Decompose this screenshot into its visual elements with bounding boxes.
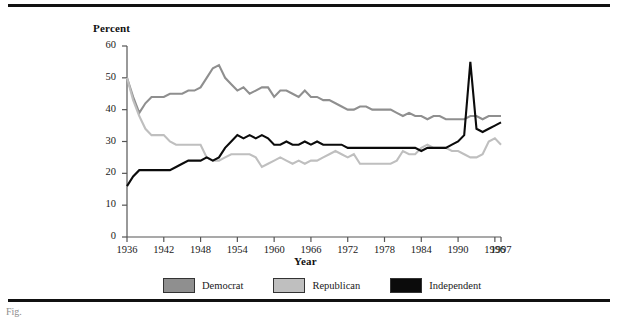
data-series-group	[127, 62, 501, 186]
y-tick-label: 20	[94, 166, 116, 177]
series-line-independent	[127, 62, 501, 186]
x-tick-label: 1978	[365, 244, 405, 255]
y-tick-label: 30	[94, 135, 116, 146]
y-tick-label: 40	[94, 103, 116, 114]
series-line-democrat	[127, 65, 501, 119]
figure-container: Percent Year 010203040506019361942194819…	[0, 0, 618, 325]
y-tick-label: 50	[94, 71, 116, 82]
y-tick-label: 60	[94, 39, 116, 50]
x-tick-label: 1997	[481, 244, 521, 255]
x-tick-label: 1990	[438, 244, 478, 255]
y-tick-label: 0	[94, 230, 116, 241]
legend-democrat[interactable]: Democrat	[163, 278, 243, 293]
x-tick-label: 1972	[328, 244, 368, 255]
x-tick-label: 1936	[107, 244, 147, 255]
legend-swatch-icon	[163, 278, 195, 293]
x-tick-label: 1948	[181, 244, 221, 255]
series-line-republican	[127, 78, 501, 167]
x-tick-label: 1966	[291, 244, 331, 255]
legend-label: Democrat	[202, 280, 243, 291]
legend-swatch-icon	[390, 278, 422, 293]
chart-legend: DemocratRepublicanIndependent	[163, 276, 493, 294]
x-tick-label: 1984	[401, 244, 441, 255]
legend-label: Republican	[312, 280, 360, 291]
legend-republican[interactable]: Republican	[273, 278, 360, 293]
legend-label: Independent	[429, 280, 481, 291]
x-tick-label: 1954	[217, 244, 257, 255]
legend-independent[interactable]: Independent	[390, 278, 481, 293]
figure-caption: Fig.	[6, 306, 22, 317]
x-tick-label: 1942	[144, 244, 184, 255]
legend-swatch-icon	[273, 278, 305, 293]
y-tick-label: 10	[94, 198, 116, 209]
x-tick-label: 1960	[254, 244, 294, 255]
